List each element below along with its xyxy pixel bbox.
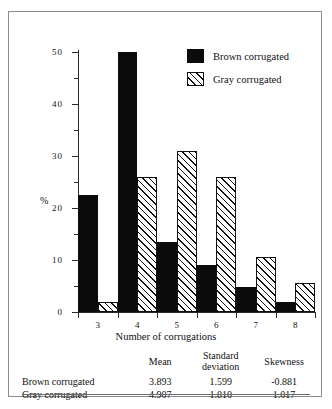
bar-brown-3 (78, 195, 98, 312)
table-header-skewness: Skewness (258, 349, 310, 375)
x-tick (78, 312, 79, 318)
x-tick (315, 312, 316, 318)
bar-gray-3 (98, 302, 118, 312)
row-skewness-brown: -0.881 (258, 375, 310, 388)
x-tick-label: 8 (293, 320, 298, 330)
table-header-blank (22, 349, 137, 375)
x-tick-label: 5 (175, 320, 180, 330)
x-tick (236, 312, 237, 318)
table-header-row: Mean Standard deviation Skewness (22, 349, 310, 375)
bar-brown-7 (236, 287, 256, 312)
table-header-sd: Standard deviation (183, 349, 258, 375)
legend-item-brown: Brown corrugated (187, 49, 289, 63)
bar-gray-4 (137, 177, 157, 312)
legend-swatch-gray-icon (187, 72, 204, 86)
bar-gray-6 (216, 177, 236, 312)
x-tick-label: 7 (254, 320, 259, 330)
table-header-mean: Mean (137, 349, 183, 375)
table-bottom-rule (22, 394, 310, 395)
x-tick (118, 312, 119, 318)
legend-swatch-brown-icon (187, 49, 204, 63)
bar-brown-4 (118, 52, 138, 312)
bar-brown-5 (157, 242, 177, 312)
bar-brown-8 (276, 302, 296, 312)
y-tick-label: 10 (0, 255, 63, 265)
row-mean-brown: 3.893 (137, 375, 183, 388)
legend-item-gray: Gray corrugated (187, 72, 289, 86)
legend-label-brown: Brown corrugated (213, 51, 289, 62)
figure-page: % 01020304050 345678 Number of corrugati… (0, 0, 332, 409)
y-tick-label: 0 (0, 307, 63, 317)
row-sd-brown: 1.599 (183, 375, 258, 388)
x-tick (276, 312, 277, 318)
x-tick-label: 6 (214, 320, 219, 330)
x-tick (157, 312, 158, 318)
chart-legend: Brown corrugated Gray corrugated (187, 49, 289, 95)
bar-gray-7 (256, 257, 276, 312)
bar-brown-6 (197, 265, 217, 312)
bar-gray-8 (295, 283, 315, 312)
table-row: Brown corrugated 3.893 1.599 -0.881 (22, 375, 310, 388)
x-tick-label: 4 (135, 320, 140, 330)
y-tick-label: 20 (0, 203, 63, 213)
legend-label-gray: Gray corrugated (213, 74, 282, 85)
x-tick (197, 312, 198, 318)
y-tick-label: 50 (0, 47, 63, 57)
y-tick-label: 30 (0, 151, 63, 161)
bar-gray-5 (177, 151, 197, 312)
x-axis-title: Number of corrugations (0, 331, 332, 342)
x-tick-label: 3 (96, 320, 101, 330)
bar-chart: % 01020304050 345678 Number of corrugati… (0, 0, 332, 330)
row-label-brown: Brown corrugated (22, 375, 137, 388)
y-tick-label: 40 (0, 99, 63, 109)
